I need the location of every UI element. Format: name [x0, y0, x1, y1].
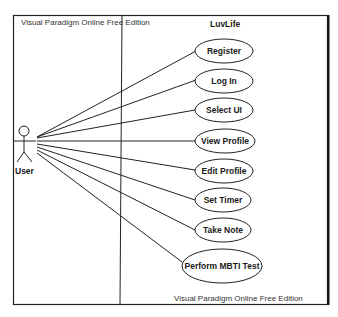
svg-text:Log In: Log In [211, 76, 237, 86]
use-case-log-in[interactable]: Log In [195, 69, 253, 93]
use-case-diagram: Visual Paradigm Online Free Edition LuvL… [0, 0, 338, 317]
use-case-take-note[interactable]: Take Note [195, 218, 251, 242]
use-case-edit-profile[interactable]: Edit Profile [195, 159, 253, 183]
use-case-register[interactable]: Register [195, 39, 253, 63]
svg-text:Perform MBTI Test: Perform MBTI Test [185, 261, 260, 271]
svg-text:Set Timer: Set Timer [204, 195, 243, 205]
use-case-select-ui[interactable]: Select UI [195, 98, 253, 122]
outer-frame [14, 16, 328, 305]
svg-text:Edit Profile: Edit Profile [202, 166, 247, 176]
use-case-perform-mbti-test[interactable]: Perform MBTI Test [182, 249, 262, 283]
actor-user[interactable] [14, 126, 36, 162]
system-title: LuvLife [210, 19, 240, 29]
use-case-view-profile[interactable]: View Profile [195, 129, 255, 153]
svg-text:Select UI: Select UI [206, 105, 242, 115]
system-boundary [120, 15, 122, 304]
use-case-set-timer[interactable]: Set Timer [195, 188, 251, 212]
watermark-bottom: Visual Paradigm Online Free Edition [174, 294, 303, 303]
watermark-top: Visual Paradigm Online Free Edition [21, 18, 150, 27]
svg-text:Take Note: Take Note [203, 225, 243, 235]
associations [37, 51, 196, 262]
actor-head [19, 126, 29, 136]
actor-label: User [15, 166, 35, 176]
svg-text:View Profile: View Profile [201, 136, 249, 146]
svg-text:Register: Register [207, 46, 242, 56]
